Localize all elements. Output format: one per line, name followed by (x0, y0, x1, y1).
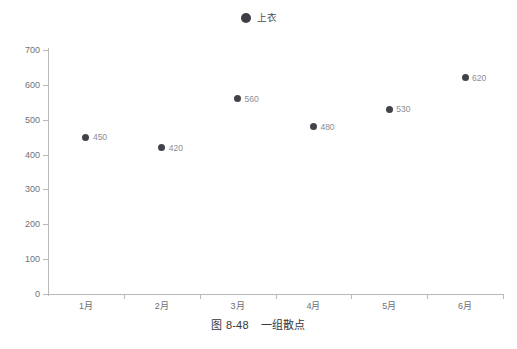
x-axis-tick (276, 294, 277, 299)
plot-region: 0100200300400500600700 1月2月3月4月5月6月 4504… (48, 50, 503, 294)
x-axis-tick-label: 2月 (155, 302, 169, 311)
data-point[interactable] (462, 74, 469, 81)
data-point-label: 420 (169, 143, 183, 152)
y-axis-tick-label: 0 (35, 290, 40, 299)
data-point-label: 560 (245, 95, 259, 104)
y-axis-tick-label: 700 (25, 46, 40, 55)
x-axis-tick-label: 4月 (306, 302, 320, 311)
x-axis-tick (427, 294, 428, 299)
data-point-label: 620 (472, 74, 486, 83)
figure-caption: 图 8-48一组散点 (0, 320, 517, 331)
data-point-label: 530 (396, 105, 410, 114)
x-axis-tick-label: 5月 (382, 302, 396, 311)
y-axis-tick (43, 224, 48, 225)
y-axis-tick (43, 189, 48, 190)
legend-item-label[interactable]: 上衣 (257, 13, 277, 23)
data-point[interactable] (158, 144, 165, 151)
figure-caption-number: 图 8-48 (211, 319, 248, 331)
y-axis-tick (43, 120, 48, 121)
y-axis-tick-label: 600 (25, 80, 40, 89)
y-axis-tick (43, 259, 48, 260)
y-axis-tick-label: 200 (25, 220, 40, 229)
y-axis-tick-label: 300 (25, 185, 40, 194)
figure-scatter-chart: 上衣 0100200300400500600700 1月2月3月4月5月6月 4… (0, 0, 517, 349)
data-point[interactable] (234, 95, 241, 102)
y-axis-tick-label: 500 (25, 115, 40, 124)
x-axis-tick-label: 1月 (79, 302, 93, 311)
data-point-label: 480 (320, 122, 334, 131)
data-point-label: 450 (93, 133, 107, 142)
y-axis-tick-label: 400 (25, 150, 40, 159)
data-point[interactable] (310, 123, 317, 130)
filled-circle-marker-icon (241, 13, 251, 23)
x-axis-tick (124, 294, 125, 299)
y-axis-tick (43, 50, 48, 51)
chart-legend: 上衣 (0, 9, 517, 27)
chart-area: 上衣 0100200300400500600700 1月2月3月4月5月6月 4… (0, 0, 517, 312)
y-axis-tick (43, 294, 48, 295)
y-axis-tick (43, 155, 48, 156)
x-axis-tick-label: 3月 (231, 302, 245, 311)
y-axis-tick-label: 100 (25, 255, 40, 264)
x-axis-tick (503, 294, 504, 299)
data-point[interactable] (386, 106, 393, 113)
x-axis-tick (200, 294, 201, 299)
figure-caption-title: 一组散点 (261, 319, 306, 331)
y-axis-tick (43, 85, 48, 86)
data-point[interactable] (82, 134, 89, 141)
x-axis-tick-label: 6月 (458, 302, 472, 311)
x-axis-tick (351, 294, 352, 299)
